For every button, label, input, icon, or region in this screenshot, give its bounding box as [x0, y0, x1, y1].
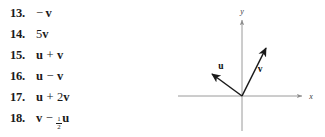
exercise-item: 15.u+v [10, 48, 118, 69]
vector-symbol: v [63, 90, 69, 105]
x-axis-label: x [308, 92, 313, 101]
vector-symbol: v [42, 27, 48, 42]
vector-symbol: v [57, 48, 63, 63]
vector-symbol: u [62, 111, 69, 126]
exercise-item: 18.v−12u [10, 111, 118, 132]
exercise-item: 13.−v [10, 6, 118, 27]
exercise-number: 18. [10, 111, 36, 126]
vector-v-arrow [242, 48, 266, 96]
vector-u-label: u [218, 61, 224, 71]
vector-symbol: u [36, 69, 43, 84]
vector-diagram: x y u v [120, 0, 325, 137]
operator-symbol: + [43, 90, 57, 105]
exercise-number: 13. [10, 6, 36, 21]
exercise-number: 15. [10, 48, 36, 63]
fraction-denominator: 2 [56, 123, 61, 131]
exercise-number: 14. [10, 27, 36, 42]
exercise-number: 16. [10, 69, 36, 84]
operator-symbol: − [36, 6, 46, 21]
vector-symbol: v [57, 69, 63, 84]
exercise-number: 17. [10, 90, 36, 105]
vector-u-arrow [212, 74, 242, 96]
exercise-item: 14.5v [10, 27, 118, 48]
vector-symbol: u [36, 48, 43, 63]
vector-symbol: u [36, 90, 43, 105]
exercise-expression: v−12u [36, 111, 69, 132]
exercise-expression: u+v [36, 48, 63, 63]
exercise-expression: u−v [36, 69, 63, 84]
operator-symbol: − [42, 111, 56, 126]
vector-v-label: v [258, 64, 263, 74]
fraction-numerator: 1 [56, 116, 61, 123]
exercise-list: 13.−v14.5v15.u+v16.u−v17.u+2v18.v−12u [10, 6, 118, 132]
exercise-item: 17.u+2v [10, 90, 118, 111]
exercise-expression: u+2v [36, 90, 70, 105]
vector-symbol: v [46, 6, 52, 21]
exercise-expression: −v [36, 6, 52, 21]
fraction-one-half: 12 [56, 116, 61, 131]
operator-symbol: − [43, 69, 57, 84]
operator-symbol: + [43, 48, 57, 63]
exercise-expression: 5v [36, 27, 49, 42]
y-axis-label: y [239, 7, 244, 16]
exercise-item: 16.u−v [10, 69, 118, 90]
